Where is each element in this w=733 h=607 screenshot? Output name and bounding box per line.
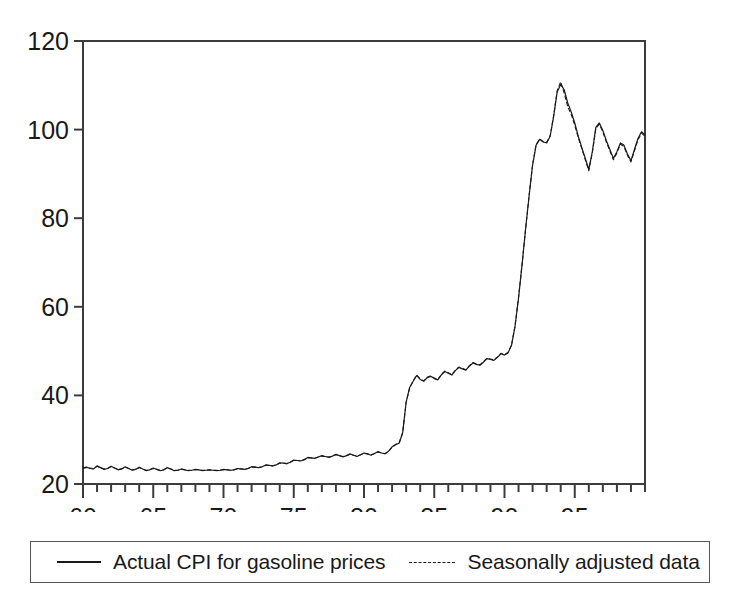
plot-background — [0, 0, 733, 512]
x-tick-label: 95 — [561, 503, 589, 512]
line-chart-plot: 20406080100120 6065707580859095 — [0, 0, 733, 512]
y-tick-label: 120 — [27, 27, 69, 55]
x-tick-label: 85 — [420, 503, 448, 512]
x-tick-label: 70 — [210, 503, 238, 512]
chart-legend: Actual CPI for gasoline prices Seasonall… — [30, 541, 710, 583]
y-tick-label: 40 — [41, 381, 69, 409]
legend-entry-seasonal: Seasonally adjusted data — [399, 550, 699, 574]
x-tick-label: 65 — [139, 503, 167, 512]
x-tick-label: 60 — [69, 503, 97, 512]
x-tick-label: 90 — [491, 503, 519, 512]
x-tick-label: 75 — [280, 503, 308, 512]
y-tick-label: 80 — [41, 204, 69, 232]
legend-label-seasonal: Seasonally adjusted data — [467, 550, 699, 574]
y-tick-label: 20 — [41, 470, 69, 498]
legend-swatch-solid-icon — [57, 561, 101, 563]
legend-swatch-dashed-icon — [409, 562, 455, 563]
legend-label-actual: Actual CPI for gasoline prices — [113, 550, 385, 574]
chart-figure: 20406080100120 6065707580859095 Actual C… — [0, 0, 733, 607]
y-tick-label: 100 — [27, 116, 69, 144]
y-tick-label: 60 — [41, 293, 69, 321]
x-tick-label: 80 — [350, 503, 378, 512]
legend-entry-actual: Actual CPI for gasoline prices — [57, 550, 385, 574]
